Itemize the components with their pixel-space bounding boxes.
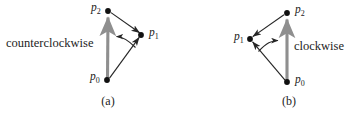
vertex-dot-p0 [284,79,290,85]
vertex-dot-p1 [247,36,253,42]
vertex-label-p2: p2 [91,2,101,16]
vertex-label-p0-subscript: 0 [301,79,305,88]
rotation-arc-clockwise [259,41,279,52]
vertex-label-p2-subscript: 2 [301,9,305,18]
caption-a: (a) [88,95,128,107]
vertex-label-p0: p0 [90,71,100,85]
vertex-dot-p2 [105,8,111,14]
edge-p2-to-p1 [253,15,284,37]
vertex-label-p1: p1 [149,27,159,41]
vertex-dot-p2 [284,10,290,16]
edge-p0-to-p2 [108,18,109,79]
edge-p0-to-p1 [110,37,140,78]
panel-a-counterclockwise: p2 p1 p0 counterclockwise (a) [0,0,180,116]
vertex-dot-p0 [104,77,110,83]
edge-p2-to-p1 [111,13,140,33]
direction-label-clockwise: clockwise [294,40,344,53]
edge-p0-to-p1 [253,42,285,80]
vertex-label-p2-subscript: 2 [97,7,101,16]
vertex-label-p1-subscript: 1 [155,32,159,41]
caption-b: (b) [269,95,309,107]
vertex-label-p0-subscript: 0 [96,76,100,85]
orientation-figure: p2 p1 p0 counterclockwise (a) [0,0,359,116]
vertex-label-p0: p0 [295,74,305,88]
vertex-label-p2: p2 [295,4,305,18]
direction-label-counterclockwise: counterclockwise [6,37,93,50]
vertex-label-p1-subscript: 1 [240,36,244,45]
vertex-label-p1: p1 [234,31,244,45]
panel-b-clockwise: p2 p1 p0 clockwise (b) [180,0,359,116]
vertex-dot-p1 [138,32,144,38]
